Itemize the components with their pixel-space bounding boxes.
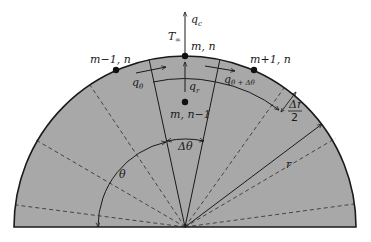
label-qr: q <box>189 80 196 93</box>
label-node-m-n-minus-1: m, n−1 <box>170 108 211 121</box>
label-qc: q <box>191 13 198 26</box>
label-q-theta: q <box>132 76 139 89</box>
label-t-inf-sub: ∞ <box>175 36 181 44</box>
node-m-n-minus-1 <box>182 99 188 105</box>
label-delta-r-den: 2 <box>291 111 298 124</box>
label-node-m-plus-1-n: m+1, n <box>250 53 291 66</box>
node-m-minus-1-n <box>113 67 119 73</box>
label-theta: θ <box>119 168 126 181</box>
label-delta-r-num: Δr <box>288 98 303 111</box>
label-q-theta-dtheta: q <box>224 73 231 86</box>
label-node-m-n: m, n <box>191 40 216 53</box>
heat-conduction-semicircle-diagram: m, n m−1, n m+1, n m, n−1 q c T ∞ q θ q … <box>0 0 371 242</box>
label-q-theta-dtheta-sub: θ + Δθ <box>231 79 256 87</box>
label-node-m-minus-1-n: m−1, n <box>90 53 131 66</box>
label-r: r <box>286 158 292 171</box>
label-delta-theta: Δθ <box>177 140 193 153</box>
node-m-n <box>182 53 188 59</box>
node-m-plus-1-n <box>251 67 257 73</box>
label-qc-sub: c <box>198 20 202 28</box>
